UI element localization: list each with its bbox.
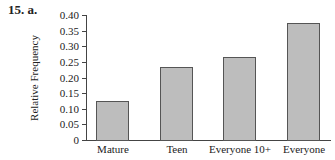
y-tick	[82, 46, 86, 47]
problem-label: 15. a.	[8, 2, 37, 18]
bar-mature	[96, 101, 129, 141]
y-tick-label: 0.25	[60, 56, 79, 68]
y-tick-label: 0.35	[60, 25, 79, 37]
y-tick	[82, 15, 86, 16]
y-tick-label: 0	[74, 134, 80, 146]
y-tick	[82, 124, 86, 125]
y-axis-label: Relative Frequency	[28, 35, 40, 121]
y-tick-label: 0.20	[60, 72, 79, 84]
x-tick-label: Everyone	[283, 143, 325, 155]
y-tick-label: 0.05	[60, 118, 79, 130]
y-tick	[82, 93, 86, 94]
x-tick-label: Teen	[166, 143, 187, 155]
y-tick-label: 0.40	[60, 9, 79, 21]
bar-everyone	[287, 23, 320, 141]
y-tick	[82, 109, 86, 110]
y-tick	[82, 62, 86, 63]
y-tick-label: 0.30	[60, 40, 79, 52]
y-tick	[82, 31, 86, 32]
y-tick	[82, 140, 86, 141]
y-tick-label: 0.10	[60, 103, 79, 115]
bar-teen	[160, 67, 193, 141]
y-tick-label: 0.15	[60, 87, 79, 99]
x-tick-label: Mature	[97, 143, 129, 155]
bar-everyone-10plus	[223, 57, 256, 141]
y-tick	[82, 78, 86, 79]
y-axis	[86, 15, 87, 141]
x-tick-label: Everyone 10+	[209, 143, 271, 155]
